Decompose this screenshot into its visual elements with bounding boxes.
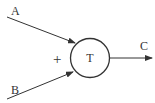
node-label: T xyxy=(86,51,94,65)
plus-sign: + xyxy=(53,51,61,67)
input-a-arrow xyxy=(7,17,75,43)
block-diagram: A B + T C xyxy=(0,0,155,103)
input-a-label: A xyxy=(11,4,20,18)
output-c-label: C xyxy=(140,39,148,53)
